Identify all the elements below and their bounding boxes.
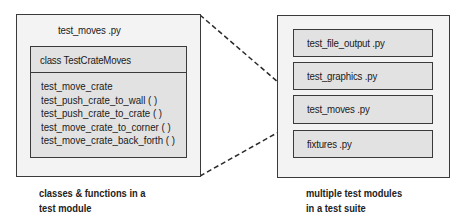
- left-caption: classes & functions in a test module: [39, 186, 146, 216]
- method-item: test_move_crate_to_corner ( ): [41, 121, 175, 135]
- test-module-box: test_moves .py class TestCrateMoves test…: [16, 14, 201, 177]
- right-caption-line1: multiple test modules: [306, 186, 402, 201]
- class-box: class TestCrateMoves test_move_crate tes…: [30, 46, 187, 158]
- module-label: test_moves .py: [307, 103, 370, 115]
- right-caption-line2: in a test suite: [306, 201, 402, 216]
- module-item-test-file-output: test_file_output .py: [293, 29, 433, 57]
- right-caption: multiple test modules in a test suite: [306, 186, 402, 216]
- method-item: test_push_crate_to_wall ( ): [41, 94, 175, 108]
- module-label: test_file_output .py: [307, 37, 385, 49]
- method-item: test_move_crate: [41, 80, 175, 94]
- left-caption-line1: classes & functions in a: [39, 186, 146, 201]
- module-label: fixtures .py: [307, 138, 352, 150]
- module-item-test-graphics: test_graphics .py: [293, 62, 433, 90]
- class-name: class TestCrateMoves: [40, 54, 131, 66]
- method-item: test_push_crate_to_crate ( ): [41, 107, 175, 121]
- method-item: test_move_crate_back_forth ( ): [41, 134, 175, 148]
- left-caption-line2: test module: [39, 201, 146, 216]
- module-item-test-moves: test_moves .py: [293, 95, 433, 124]
- class-header: class TestCrateMoves: [31, 47, 186, 73]
- module-item-fixtures: fixtures .py: [293, 130, 433, 158]
- module-title: test_moves .py: [58, 24, 121, 36]
- method-list: test_move_crate test_push_crate_to_wall …: [41, 80, 175, 148]
- module-label: test_graphics .py: [307, 70, 377, 82]
